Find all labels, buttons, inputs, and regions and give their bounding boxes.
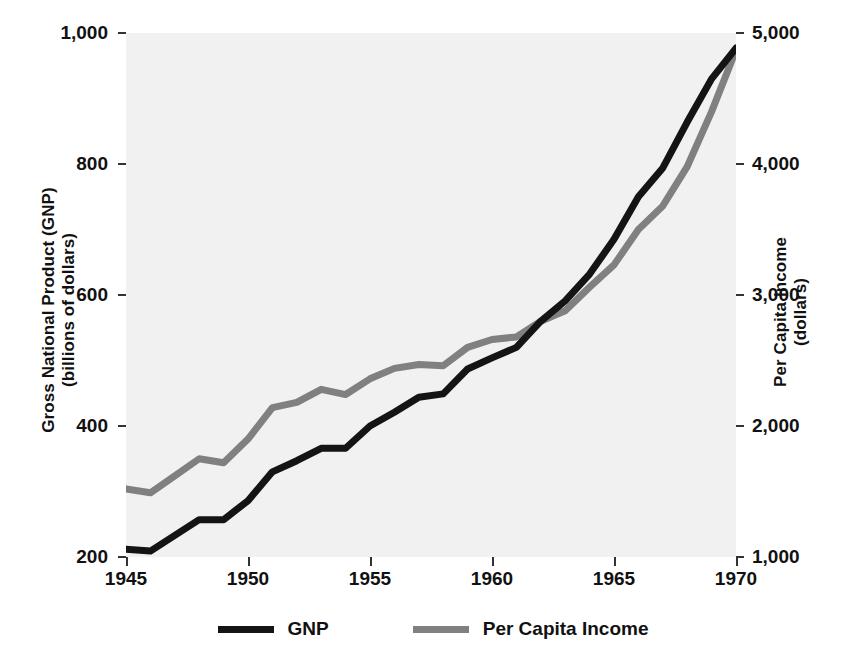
- legend-item-per-capita-income: Per Capita Income: [413, 618, 649, 640]
- right-ytick-label: 4,000: [752, 153, 832, 175]
- xtick-label: 1950: [208, 568, 288, 590]
- series-line-per-capita-income: [126, 50, 736, 493]
- left-ytick-mark: [118, 163, 126, 165]
- xtick-mark: [126, 557, 128, 566]
- xtick-label: 1965: [574, 568, 654, 590]
- xtick-label: 1945: [86, 568, 166, 590]
- right-ytick-mark: [736, 425, 744, 427]
- right-ytick-label: 5,000: [752, 22, 832, 44]
- plot-area: [126, 33, 736, 557]
- legend-label: GNP: [288, 618, 329, 640]
- xtick-mark: [370, 557, 372, 566]
- xtick-mark: [736, 557, 738, 566]
- right-ytick-label: 1,000: [752, 546, 832, 568]
- xtick-mark: [248, 557, 250, 566]
- series-line-gnp: [126, 48, 736, 551]
- xtick-label: 1970: [696, 568, 776, 590]
- legend-label: Per Capita Income: [483, 618, 649, 640]
- left-ytick-mark: [118, 32, 126, 34]
- left-ytick-label: 1,000: [28, 22, 108, 44]
- chart-figure: Gross National Product (GNP) (billions o…: [0, 0, 866, 660]
- chart-legend: GNP Per Capita Income: [0, 618, 866, 640]
- left-ytick-mark: [118, 425, 126, 427]
- xtick-label: 1960: [452, 568, 532, 590]
- right-ytick-label: 2,000: [752, 415, 832, 437]
- legend-item-gnp: GNP: [218, 618, 329, 640]
- xtick-mark: [492, 557, 494, 566]
- plot-svg: [126, 33, 736, 557]
- legend-swatch-icon: [218, 626, 274, 633]
- right-axis-title-line1: Per Capita Income: [771, 237, 790, 387]
- left-axis-title-line1: Gross National Product (GNP): [39, 187, 58, 433]
- left-ytick-label: 800: [28, 153, 108, 175]
- left-ytick-label: 600: [28, 284, 108, 306]
- left-ytick-label: 400: [28, 415, 108, 437]
- left-ytick-mark: [118, 294, 126, 296]
- xtick-mark: [614, 557, 616, 566]
- right-ytick-mark: [736, 32, 744, 34]
- right-ytick-mark: [736, 163, 744, 165]
- legend-swatch-icon: [413, 626, 469, 633]
- left-ytick-label: 200: [28, 546, 108, 568]
- right-ytick-label: 3,000: [752, 284, 832, 306]
- left-ytick-mark: [118, 556, 126, 558]
- xtick-label: 1955: [330, 568, 410, 590]
- right-ytick-mark: [736, 294, 744, 296]
